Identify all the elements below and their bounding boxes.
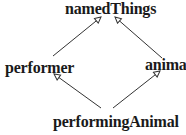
node-performer: performer — [5, 60, 74, 76]
edge-performingAnimal-to-performer — [54, 74, 101, 108]
edge-performingAnimal-to-animal — [113, 71, 160, 108]
node-performingAnimal: performingAnimal — [53, 114, 179, 130]
node-namedThings: namedThings — [65, 1, 156, 17]
edge-performer-to-namedThings — [53, 17, 101, 56]
node-animal: animal — [145, 57, 186, 73]
edge-animal-to-namedThings — [115, 17, 162, 58]
